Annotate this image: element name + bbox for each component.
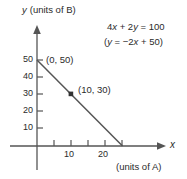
- y-tick-label-20: 20: [13, 106, 33, 115]
- x-axis-title-variable: x: [170, 140, 175, 150]
- equation-primary: 4x + 2y = 100: [107, 22, 165, 32]
- y-axis-title: y(units of B): [22, 5, 76, 15]
- point-label-10-30: (10, 30): [78, 85, 111, 95]
- y-axis-title-units: (units of B): [30, 4, 76, 15]
- x-tick-label-10: 10: [64, 150, 74, 159]
- equation-primary-rhs: = 100: [138, 21, 165, 32]
- x-axis-arrowhead: [157, 142, 166, 150]
- y-tick-label-10: 10: [13, 123, 33, 132]
- data-point-marker-10-30: [69, 92, 74, 97]
- y-tick-label-40: 40: [13, 72, 33, 81]
- x-tick-label-20: 20: [98, 150, 108, 159]
- y-tick-label-50: 50: [13, 55, 33, 64]
- y-axis-title-variable: y: [22, 4, 27, 15]
- equation-secondary-op: = −2: [112, 36, 134, 47]
- equation-secondary-rhs: + 50): [138, 36, 163, 47]
- line-graph-figure: y(units of B) 4x + 2y = 100 (y = −2x + 5…: [0, 0, 187, 179]
- point-label-0-50: (0, 50): [46, 55, 73, 65]
- data-line-series-1: [37, 60, 123, 146]
- y-tick-label-30: 30: [13, 89, 33, 98]
- equation-secondary: (y = −2x + 50): [104, 37, 163, 47]
- equation-primary-op: + 2: [117, 21, 133, 32]
- x-axis-title-units: (units of A): [116, 162, 161, 172]
- y-axis-arrowhead: [33, 25, 41, 34]
